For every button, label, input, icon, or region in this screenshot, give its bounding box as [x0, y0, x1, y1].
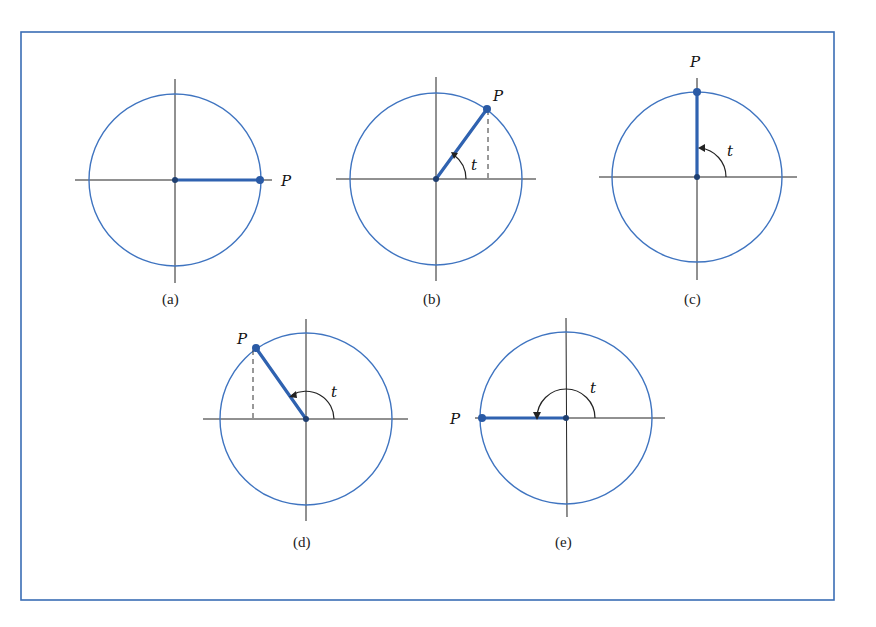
panel-caption: (a) — [162, 291, 179, 308]
point-p-label: P — [492, 87, 504, 105]
angle-t-label: t — [590, 379, 597, 397]
panel-d: P t (d) — [203, 319, 408, 551]
point-p — [256, 176, 264, 184]
angle-arc — [454, 155, 466, 179]
origin-point — [433, 176, 439, 182]
angle-arc — [292, 391, 334, 419]
radius-segment — [256, 348, 306, 419]
origin-point — [563, 415, 569, 421]
point-p-label: P — [449, 410, 461, 428]
origin-point — [303, 416, 309, 422]
origin-point — [694, 174, 700, 180]
panel-caption: (d) — [293, 534, 311, 551]
radius-segment — [436, 109, 487, 179]
point-p — [252, 344, 260, 352]
panel-caption: (e) — [555, 534, 572, 551]
panel-e: P t (e) — [449, 318, 665, 551]
figure-frame — [21, 32, 834, 600]
point-p-label: P — [689, 53, 701, 71]
panel-a: P (a) — [75, 79, 292, 308]
angle-t-label: t — [331, 383, 338, 401]
angle-arc — [700, 148, 726, 177]
point-p — [483, 105, 491, 113]
point-p — [478, 414, 486, 422]
panel-c: P t (c) — [599, 53, 797, 308]
point-p-label: P — [280, 172, 292, 190]
angle-t-label: t — [727, 142, 734, 160]
panel-b: P t (b) — [336, 77, 536, 308]
panel-caption: (c) — [684, 291, 701, 308]
point-p — [693, 88, 701, 96]
origin-point — [172, 177, 178, 183]
unit-circle-figure: P (a) P t (b) P t (c) — [0, 0, 876, 627]
panel-caption: (b) — [423, 291, 441, 308]
arrowhead-icon — [698, 144, 705, 152]
angle-t-label: t — [471, 156, 478, 174]
point-p-label: P — [236, 330, 248, 348]
